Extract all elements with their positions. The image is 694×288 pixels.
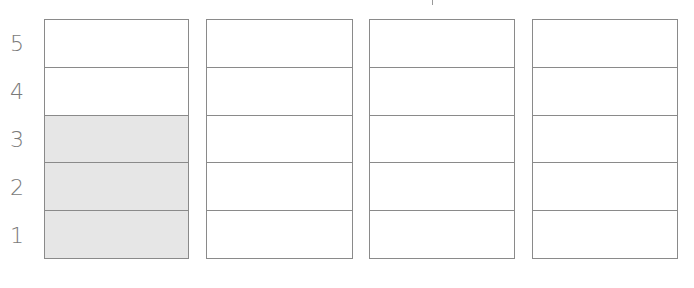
y-label-5: 5 — [0, 33, 34, 55]
column-1 — [44, 19, 189, 259]
cell-2[interactable] — [370, 162, 514, 210]
cell-3[interactable] — [207, 115, 352, 163]
cell-4[interactable] — [370, 67, 514, 115]
column-2 — [206, 19, 353, 259]
cell-5[interactable] — [45, 20, 188, 67]
y-label-3: 3 — [0, 129, 34, 151]
cell-5[interactable] — [533, 20, 677, 67]
cell-4[interactable] — [533, 67, 677, 115]
column-4 — [532, 19, 678, 259]
cell-5[interactable] — [370, 20, 514, 67]
top-tick-mark — [432, 0, 433, 5]
cell-4[interactable] — [207, 67, 352, 115]
y-label-2: 2 — [0, 177, 34, 199]
cell-5[interactable] — [207, 20, 352, 67]
cell-1[interactable] — [533, 210, 677, 258]
cell-1-filled[interactable] — [45, 210, 188, 258]
cell-3-filled[interactable] — [45, 115, 188, 163]
cell-2-filled[interactable] — [45, 162, 188, 210]
cell-3[interactable] — [370, 115, 514, 163]
y-label-4: 4 — [0, 81, 34, 103]
cell-2[interactable] — [207, 162, 352, 210]
cell-2[interactable] — [533, 162, 677, 210]
y-label-1: 1 — [0, 225, 34, 247]
cell-1[interactable] — [207, 210, 352, 258]
column-3 — [369, 19, 515, 259]
cell-3[interactable] — [533, 115, 677, 163]
cell-4[interactable] — [45, 67, 188, 115]
cell-1[interactable] — [370, 210, 514, 258]
